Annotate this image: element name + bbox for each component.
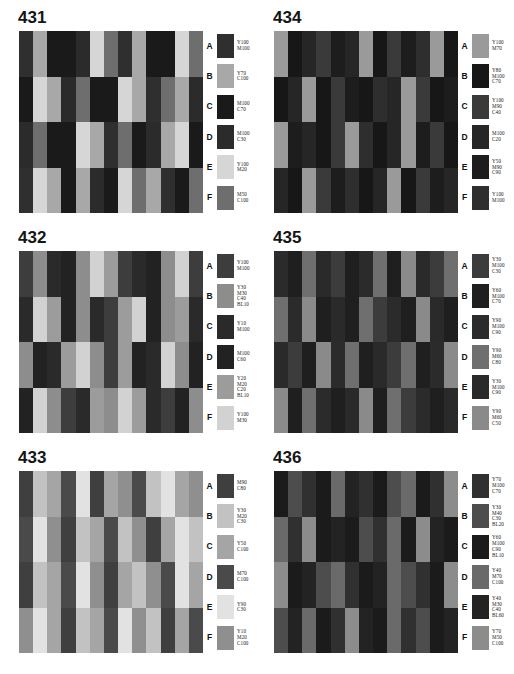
pattern-cell (189, 562, 203, 608)
pattern-cell (430, 562, 444, 608)
pattern-cell (132, 251, 146, 297)
pattern-cell (161, 608, 175, 654)
pattern-cell (161, 251, 175, 297)
legend-swatch (472, 125, 489, 149)
pattern-cell (132, 297, 146, 343)
ink-value: C20 (492, 137, 514, 143)
legend-letter: D (203, 573, 216, 582)
pattern-cell (401, 388, 415, 434)
pattern-cell (373, 168, 387, 214)
pattern-cell (359, 562, 373, 608)
pattern-cell (288, 342, 302, 388)
pattern-cell (104, 342, 118, 388)
legend-row-b: BY80M100C70 (458, 61, 514, 91)
legend-letter: F (203, 193, 216, 202)
legend-swatch (217, 345, 234, 369)
pattern-cell (359, 168, 373, 214)
legend-letter: C (458, 322, 471, 331)
legend-letter: A (203, 42, 216, 51)
pattern-grid (19, 31, 203, 213)
pattern-cell (118, 608, 132, 654)
legend-letter: A (203, 482, 216, 491)
ink-value: C70 (492, 489, 514, 495)
pattern-cell (175, 608, 189, 654)
legend-swatch (472, 565, 489, 589)
pattern-cell (274, 251, 288, 297)
legend-letter: D (203, 353, 216, 362)
pattern-cell (444, 517, 458, 563)
chart-sheet: 431AY100M100BY70C100CM100C70DM100C30EY10… (0, 0, 514, 674)
pattern-cell (118, 471, 132, 517)
pattern-cell (288, 168, 302, 214)
pattern-cell (76, 608, 90, 654)
pattern-cell (76, 168, 90, 214)
pattern-cell (444, 77, 458, 123)
pattern-cell (316, 608, 330, 654)
pattern-cell (33, 471, 47, 517)
pattern-cell (401, 122, 415, 168)
pattern-cell (132, 77, 146, 123)
pattern-cell (430, 122, 444, 168)
pattern-cell (19, 31, 33, 77)
pattern-cell (161, 297, 175, 343)
legend-ink-values: Y100M100 (492, 192, 514, 204)
pattern-cell (189, 517, 203, 563)
legend-swatch (217, 64, 234, 88)
pattern-cell (104, 388, 118, 434)
pattern-cell (316, 122, 330, 168)
pattern-cell (416, 122, 430, 168)
ink-value: BL10 (492, 553, 514, 559)
legend-ink-values: Y90M100C90 (492, 318, 514, 335)
pattern-cell (118, 31, 132, 77)
pattern-cell (175, 388, 189, 434)
pattern-cell (19, 251, 33, 297)
legend-ink-values: Y40M70C100 (492, 568, 514, 585)
pattern-cell (274, 168, 288, 214)
pattern-cell (161, 471, 175, 517)
pattern-cell (132, 471, 146, 517)
pattern-cell (146, 342, 160, 388)
pattern-cell (161, 517, 175, 563)
pattern-cell (316, 77, 330, 123)
pattern-cell (274, 31, 288, 77)
pattern-cell (189, 342, 203, 388)
legend-swatch (472, 34, 489, 58)
pattern-cell (274, 77, 288, 123)
pattern-row (19, 77, 203, 123)
legend-ink-values: Y70M100C70 (492, 477, 514, 494)
pattern-cell (345, 251, 359, 297)
pattern-cell (274, 517, 288, 563)
panel-433: 433AM90C80BY30M20C30CY50C100DM70C100EY90… (0, 448, 250, 668)
pattern-cell (302, 562, 316, 608)
pattern-cell (387, 342, 401, 388)
pattern-cell (33, 342, 47, 388)
legend-swatch (217, 406, 234, 430)
pattern-cell (161, 77, 175, 123)
pattern-cell (146, 608, 160, 654)
pattern-cell (19, 388, 33, 434)
pattern-cell (132, 562, 146, 608)
legend-swatch (472, 504, 489, 528)
pattern-cell (76, 297, 90, 343)
legend-ink-values: Y30M100C30 (492, 257, 514, 274)
pattern-cell (416, 388, 430, 434)
legend-letter: B (203, 512, 216, 521)
pattern-row (274, 297, 458, 343)
legend-row-e: EY30M100C90 (458, 372, 514, 402)
legend-letter: E (458, 163, 471, 172)
pattern-cell (104, 471, 118, 517)
pattern-row (274, 31, 458, 77)
legend-ink-values: Y50M90C90 (492, 159, 514, 176)
pattern-row (274, 471, 458, 517)
pattern-cell (302, 517, 316, 563)
pattern-row (19, 297, 203, 343)
pattern-cell (132, 122, 146, 168)
pattern-grid (274, 31, 458, 213)
legend-row-b: BY60M100C70 (458, 281, 514, 311)
pattern-cell (146, 168, 160, 214)
pattern-cell (316, 517, 330, 563)
pattern-cell (90, 608, 104, 654)
pattern-cell (302, 168, 316, 214)
ink-value: C100 (492, 580, 514, 586)
pattern-cell (387, 562, 401, 608)
